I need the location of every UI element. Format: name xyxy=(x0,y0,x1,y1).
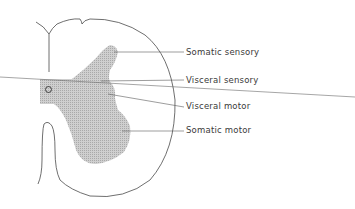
label-somatic-motor: Somatic motor xyxy=(186,125,251,135)
gray-matter xyxy=(40,45,130,164)
leader-visceral-motor xyxy=(108,94,184,107)
spinal-cord-diagram xyxy=(0,0,355,209)
label-somatic-sensory: Somatic sensory xyxy=(186,47,259,57)
label-visceral-sensory: Visceral sensory xyxy=(186,75,259,85)
label-visceral-motor: Visceral motor xyxy=(186,101,250,111)
